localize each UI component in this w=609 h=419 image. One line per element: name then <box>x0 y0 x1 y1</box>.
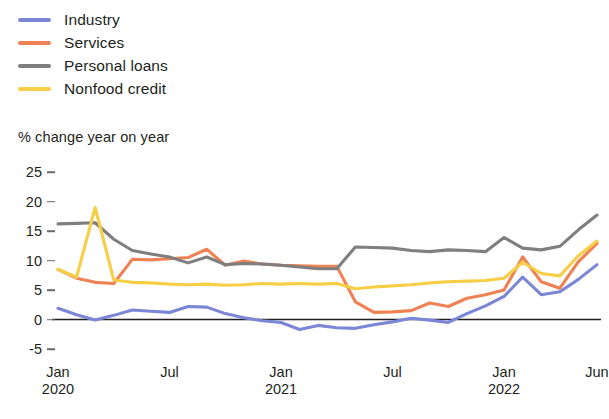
x-tick-month: Jan <box>46 364 69 380</box>
y-tick-mark <box>47 201 55 203</box>
x-tick-label: Jul <box>160 364 179 381</box>
series-line-nonfood-credit <box>58 207 597 288</box>
y-tick-label: 20 <box>12 194 42 210</box>
x-tick-month: Jul <box>383 364 402 380</box>
x-tick-year: 2021 <box>265 381 297 398</box>
x-tick-month: Jul <box>160 364 179 380</box>
x-tick-label: Jan2022 <box>488 364 520 398</box>
x-tick-year: 2020 <box>42 381 74 398</box>
x-tick-label: Jan2020 <box>42 364 74 398</box>
y-tick-mark <box>47 230 55 232</box>
x-tick-month: Jan <box>269 364 292 380</box>
y-tick-label: 10 <box>12 253 42 269</box>
x-tick-month: Jan <box>492 364 515 380</box>
x-tick-label: Jul <box>383 364 402 381</box>
y-tick-label: 25 <box>12 164 42 180</box>
y-tick-label: 0 <box>12 312 42 328</box>
x-tick-label: Jun <box>585 364 608 381</box>
y-tick-mark <box>47 289 55 291</box>
series-line-services <box>58 243 597 312</box>
x-tick-year: 2022 <box>488 381 520 398</box>
x-tick-month: Jun <box>585 364 608 380</box>
y-tick-mark <box>47 348 55 350</box>
y-tick-mark <box>47 260 55 262</box>
y-tick-mark <box>47 171 55 173</box>
y-tick-mark <box>47 319 55 321</box>
y-tick-label: -5 <box>12 341 42 357</box>
y-tick-label: 5 <box>12 282 42 298</box>
x-tick-label: Jan2021 <box>265 364 297 398</box>
y-tick-label: 15 <box>12 223 42 239</box>
